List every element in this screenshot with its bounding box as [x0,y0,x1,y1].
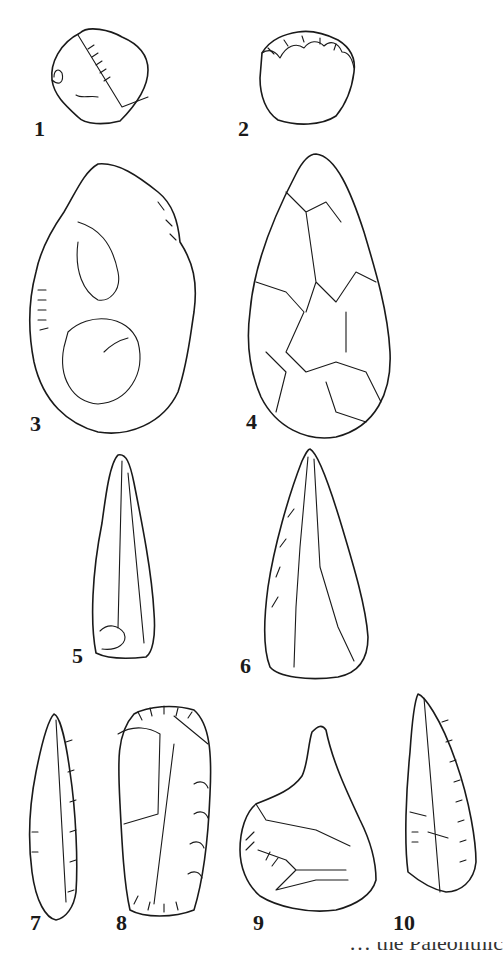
tool-label-4: 4 [246,411,257,433]
tool-label-8: 8 [116,912,127,934]
tool-drawing-8 [114,704,214,928]
tool-label-10: 10 [393,912,415,934]
tool-label-7: 7 [30,912,41,934]
tool-drawing-3 [28,162,198,441]
tool-label-5: 5 [72,645,83,667]
tool-label-9: 9 [253,912,264,934]
tool-label-2: 2 [238,118,249,140]
tool-drawing-5 [88,453,168,667]
tool-drawing-6 [258,447,378,691]
tool-drawing-1 [50,25,160,129]
stone-tools-figure: 1 2 3 4 5 [0,0,503,954]
tool-label-1: 1 [34,118,45,140]
tool-drawing-10 [400,692,480,901]
tool-label-3: 3 [30,413,41,435]
tool-label-6: 6 [240,655,251,677]
tool-drawing-2 [256,28,366,132]
tool-drawing-9 [236,720,386,924]
tool-drawing-4 [246,152,396,456]
figure-caption-text: … the Paleolithic [349,942,503,954]
tool-drawing-7 [26,712,86,931]
figure-caption: … the Paleolithic [0,942,503,954]
